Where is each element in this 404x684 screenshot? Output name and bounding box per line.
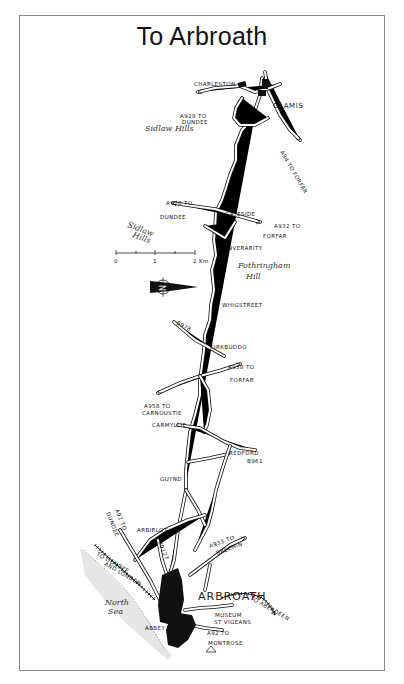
label-a92-montrose-2: MONTROSE: [208, 640, 243, 646]
label-north-sea-b: Sea: [108, 607, 123, 616]
label-a958-carnoustie-1: A958 TO: [144, 403, 171, 409]
scale-bar: [116, 250, 195, 255]
route-map: 0 1 2 Km N CHARLESTON GLAMIS GATESIDE IN…: [0, 0, 404, 684]
label-whigstreet: WHIGSTREET: [222, 302, 263, 308]
label-redford: REDFORD: [229, 450, 259, 456]
label-sidlaw-hills: Sidlaw Hills: [145, 124, 194, 133]
label-rail-aberdeen: TO ABERDEEN: [249, 594, 291, 622]
landmark-triangle-icon: [206, 646, 216, 652]
label-a92-montrose-1: A92 TO: [207, 630, 230, 636]
scale-tick-0: 0: [114, 258, 118, 264]
label-st-vigeans: ST VIGEANS: [214, 619, 251, 625]
label-a932-forfar-2: FORFAR: [263, 233, 287, 239]
label-north-sea-a: North: [104, 598, 129, 607]
label-museum: MUSEUM: [215, 612, 242, 618]
label-kirkbuddo: KIRKBUDDO: [210, 344, 247, 350]
label-glamis: GLAMIS: [273, 102, 303, 110]
svg-text:N: N: [159, 285, 168, 291]
label-a958-forfar-1: A958 TO: [228, 364, 255, 370]
label-carmyllie: CARMYLLIE: [152, 422, 186, 428]
label-arbirlot: ARBIRLOT: [137, 527, 168, 533]
label-a958-carnoustie-2: CARNOUSTIE: [142, 410, 182, 416]
label-b961: B961: [247, 458, 263, 464]
label-fothringham-hill-b: Hill: [245, 272, 261, 281]
label-abbey: ABBEY: [145, 625, 165, 631]
north-arrow-icon: N: [150, 277, 198, 297]
scale-tick-2: 2 Km: [193, 258, 209, 264]
label-gateside: GATESIDE: [225, 211, 256, 217]
label-guynd: GUYND: [160, 476, 182, 482]
scale-tick-1: 1: [153, 258, 157, 264]
label-a94-forfar: A94 TO FORFAR: [279, 150, 309, 195]
label-a928-dundee-mid-1: A928 TO: [166, 200, 193, 206]
label-a958-forfar-2: FORFAR: [230, 377, 254, 383]
label-a932-forfar-1: A932 TO: [274, 223, 301, 229]
label-a928-dundee-mid-2: DUNDEE: [160, 214, 186, 220]
label-fothringham-hill-a: Fothringham: [237, 261, 291, 270]
label-a928-dundee-top-2: DUNDEE: [182, 119, 208, 125]
label-inverarity: INVERARITY: [226, 245, 263, 251]
label-charleston: CHARLESTON: [194, 81, 235, 87]
